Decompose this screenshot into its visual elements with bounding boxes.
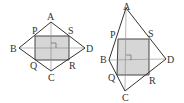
right-label-b: B xyxy=(100,54,107,65)
left-label-q: Q xyxy=(30,60,38,71)
right-label-p: P xyxy=(110,29,116,40)
left-label-d: D xyxy=(86,43,93,54)
left-label-s: S xyxy=(68,25,74,36)
left-label-r: R xyxy=(69,60,76,71)
left-label-b: B xyxy=(10,43,17,54)
right-label-a: A xyxy=(123,1,131,12)
geometry-diagram: A B C D P S Q R A B C D P S Q R xyxy=(0,0,184,103)
right-inner-square xyxy=(117,39,149,75)
right-label-s: S xyxy=(148,28,154,39)
right-label-c: C xyxy=(122,92,129,103)
left-label-p: P xyxy=(32,25,38,36)
left-figure: A B C D P S Q R xyxy=(10,11,93,83)
right-label-d: D xyxy=(167,54,174,65)
right-figure: A B C D P S Q R xyxy=(100,1,174,103)
right-label-q: Q xyxy=(108,72,116,83)
right-label-r: R xyxy=(149,75,156,86)
left-label-c: C xyxy=(48,72,55,83)
left-label-a: A xyxy=(47,11,55,22)
